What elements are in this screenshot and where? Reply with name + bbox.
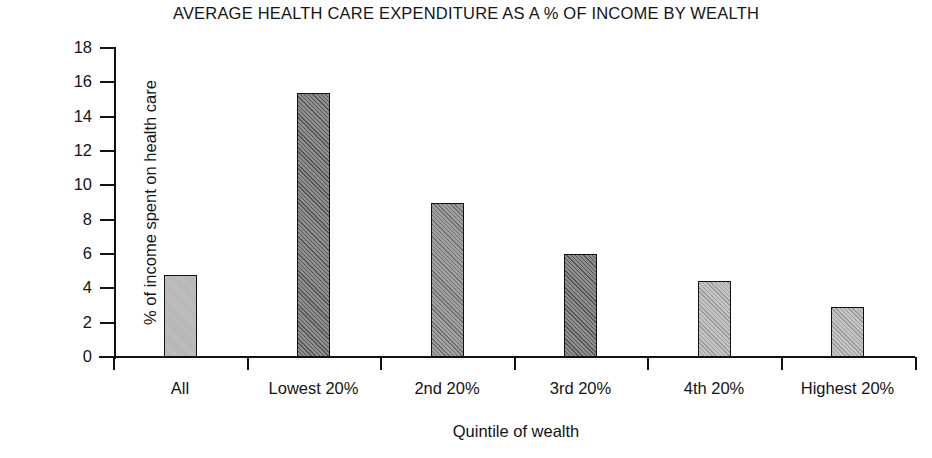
bar: [297, 93, 330, 357]
bar: [831, 307, 864, 357]
y-tick-label: 18: [40, 38, 92, 57]
y-tick: [100, 116, 114, 118]
y-tick: [100, 287, 114, 289]
y-tick-label: 10: [40, 175, 92, 194]
y-tick: [100, 81, 114, 83]
bar: [698, 281, 731, 357]
x-tick: [113, 357, 115, 370]
x-tick-label: 2nd 20%: [414, 379, 479, 398]
x-tick: [915, 357, 917, 370]
bar: [564, 254, 597, 357]
x-tick: [380, 357, 382, 370]
y-tick-label: 0: [40, 347, 92, 366]
y-tick: [100, 322, 114, 324]
y-tick: [100, 219, 114, 221]
x-tick-label: Lowest 20%: [269, 379, 359, 398]
y-tick-label: 4: [40, 278, 92, 297]
y-tick: [100, 47, 114, 49]
y-tick: [100, 150, 114, 152]
y-tick: [100, 184, 114, 186]
x-tick-label: Highest 20%: [801, 379, 895, 398]
y-tick-label: 6: [40, 244, 92, 263]
y-tick-label: 8: [40, 210, 92, 229]
y-tick-label: 12: [40, 141, 92, 160]
y-axis-title: % of income spent on health care: [141, 43, 160, 363]
x-tick-label: 4th 20%: [684, 379, 745, 398]
chart-title: AVERAGE HEALTH CARE EXPENDITURE AS A % O…: [0, 4, 932, 23]
x-tick-label: 3rd 20%: [550, 379, 611, 398]
x-tick: [647, 357, 649, 370]
bar: [431, 203, 464, 358]
y-tick-label: 2: [40, 313, 92, 332]
x-tick-label: All: [171, 379, 189, 398]
x-axis-title: Quintile of wealth: [0, 422, 932, 441]
x-tick: [781, 357, 783, 370]
bar: [164, 275, 197, 357]
y-tick-label: 16: [40, 72, 92, 91]
y-tick: [100, 356, 114, 358]
y-tick: [100, 253, 114, 255]
chart-container: AVERAGE HEALTH CARE EXPENDITURE AS A % O…: [0, 0, 932, 458]
y-tick-label: 14: [40, 107, 92, 126]
x-tick: [514, 357, 516, 370]
plot-area: % of income spent on health care: [115, 48, 915, 357]
x-tick: [247, 357, 249, 370]
